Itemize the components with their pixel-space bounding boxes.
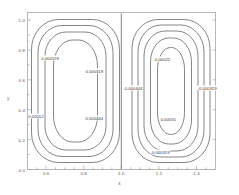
y-axis-title: y [7,95,9,100]
ytick-label-2: 0.4 [13,107,25,112]
contour-label: -0.000319 [197,86,217,91]
ytick-label-4: 0.8 [13,47,25,52]
left-lobe-contours [32,20,120,163]
ytick-label-5: 1.0 [13,18,25,23]
contour-label: 0.00012 [28,114,44,119]
xtick-label-4: 1.4 [193,171,199,176]
xtick-label-2: 1.0 [118,171,124,176]
x-axis-title: x [118,181,120,186]
contour-label: -0.00055 [159,116,176,121]
contour-label: 0.000444 [85,115,103,120]
plot-canvas [0,0,239,195]
right-lobe-contours [132,20,210,163]
xtick-label-1: 0.8 [80,171,86,176]
contour-label: -0.000444 [123,86,143,91]
right-axis-ticks [213,20,216,170]
xtick-label-3: 1.2 [156,171,162,176]
ytick-label-3: 0.6 [13,77,25,82]
ytick-label-1: 0.2 [13,137,25,142]
contour-plot-figure: 0.6 0.8 1.0 1.2 1.4 0.0 0.2 0.4 0.6 0.8 … [0,0,239,195]
contour-label: 0.000319 [85,68,103,73]
contour-label: 0.000159 [41,56,59,61]
y-axis-ticks [28,20,32,170]
contour-label: -0.00022 [153,56,170,61]
contour-label: -0.000319 [150,150,170,155]
ytick-label-0: 0.0 [13,167,25,172]
xtick-label-0: 0.6 [43,171,49,176]
